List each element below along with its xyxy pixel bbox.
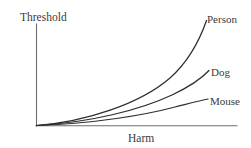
chart-canvas: Threshold Harm Person Dog Mouse: [0, 0, 251, 148]
threshold-vs-harm-chart: Threshold Harm Person Dog Mouse: [0, 0, 251, 148]
series-label-mouse: Mouse: [210, 95, 240, 107]
y-axis-label: Threshold: [20, 11, 67, 23]
series-label-person: Person: [207, 13, 237, 25]
x-axis-label: Harm: [128, 132, 154, 144]
series-label-dog: Dog: [211, 66, 230, 78]
curve-person: [37, 21, 207, 126]
